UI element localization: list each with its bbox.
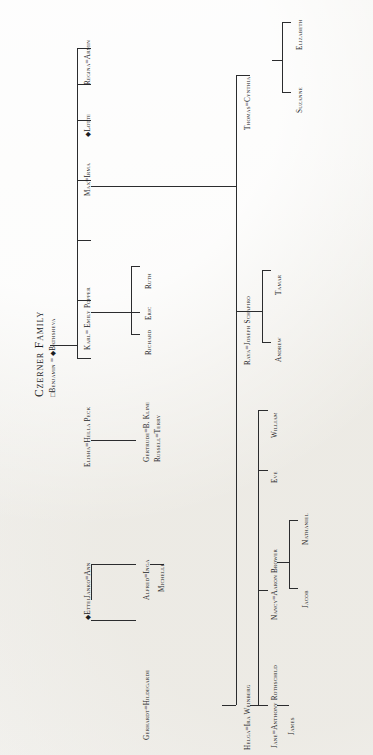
connector-gen2-elisha <box>77 240 91 241</box>
tree-node-andrew: Andrew <box>276 337 283 362</box>
connector-child-helga <box>222 705 236 706</box>
connector-karl-children-spine <box>131 266 132 334</box>
connector-child-nancy <box>258 590 268 591</box>
connector-helga-to-children <box>250 705 258 706</box>
tree-node-regina: Regina=Armin <box>85 40 92 85</box>
connector-janko-drop <box>91 564 92 600</box>
connector-raya-children-spine <box>262 270 263 342</box>
tree-node-gerhardt: Gerhardt=Hildegarde <box>144 670 151 740</box>
connector-elisha-to-gertrude <box>91 440 136 441</box>
connector-child-jane <box>258 705 268 706</box>
family-tree-chart: Czerner Family □Benjamin = ◆Bathsheva ◆E… <box>0 0 373 755</box>
tree-node-gertrude: Gertrude=B. Kline <box>144 402 151 462</box>
tree-node-max: Max=Irma <box>85 163 92 196</box>
connector-child-suzanne <box>282 92 291 93</box>
connector-child-jacob <box>289 588 298 589</box>
connector-child-eve <box>258 470 268 471</box>
connector-helga-children-spine <box>258 410 259 705</box>
connector-root-stem <box>50 345 77 346</box>
connector-gen2-spine <box>77 48 78 358</box>
tree-node-thomas: Thomas=Cynthia <box>245 77 252 130</box>
tree-node-raya: Raya=Joseph Schapiro <box>245 296 252 365</box>
connector-max-to-children <box>91 186 236 187</box>
tree-node-elisha: Elisha=Hella Peck <box>85 407 92 467</box>
page-title: Czerner Family <box>34 311 46 397</box>
tree-node-eve: Eve <box>272 471 279 483</box>
tree-node-russell: Russell=Terry <box>155 415 162 462</box>
tree-node-jacob: Jacob <box>303 590 310 608</box>
tree-node-william: William <box>272 412 279 438</box>
tree-node-tamar: Tamar <box>276 275 283 295</box>
connector-karl-to-children <box>91 312 131 313</box>
tree-node-michelle: Michelle <box>159 563 166 592</box>
tree-node-lotte: ◆Lotte <box>85 114 92 137</box>
connector-child-nathaniel <box>289 520 298 521</box>
connector-thomas-children-spine <box>282 22 283 92</box>
tree-node-jane: Jane=Anthony Rothschild <box>272 665 279 748</box>
tree-node-ettel: ◆Ettel <box>85 597 92 620</box>
connector-gen2-ettel <box>77 358 91 359</box>
tree-node-helga: Helga=Ira Weinberg <box>245 684 252 750</box>
connector-thomas-to-children <box>272 60 282 61</box>
connector-nancy-children-spine <box>289 520 290 588</box>
connector-ettel-to-gerhardt <box>91 620 136 621</box>
connector-child-tamar <box>262 270 271 271</box>
tree-node-eric: Eric <box>146 306 153 320</box>
tree-node-nancy: Nancy=Aaron Brower <box>272 549 279 620</box>
connector-max-children-spine <box>236 75 237 705</box>
tree-node-karl: Karl= Emily Popper <box>85 287 92 350</box>
tree-node-ruth: Ruth <box>146 273 153 289</box>
connector-child-richard <box>131 334 140 335</box>
connector-child-elizabeth <box>282 22 291 23</box>
connector-janko-to-alfred <box>91 564 136 565</box>
connector-child-andrew <box>262 342 271 343</box>
connector-raya-to-children <box>250 311 262 312</box>
tree-node-james: James <box>289 717 296 735</box>
tree-node-richard: Richard <box>146 330 153 355</box>
tree-node-alfred: Alfred=Inga <box>144 559 151 600</box>
tree-node-root: □Benjamin = ◆Bathsheva <box>50 318 57 397</box>
connector-child-william <box>258 410 268 411</box>
connector-jane-to-james <box>277 705 289 706</box>
tree-node-nathaniel: Nathaniel <box>303 513 310 545</box>
connector-nancy-to-children <box>277 562 289 563</box>
connector-child-eric <box>131 312 140 313</box>
tree-node-elizabeth: Elizabeth <box>297 19 304 50</box>
connector-child-ruth <box>131 266 140 267</box>
tree-node-suzanne: Suzanne <box>297 87 304 113</box>
